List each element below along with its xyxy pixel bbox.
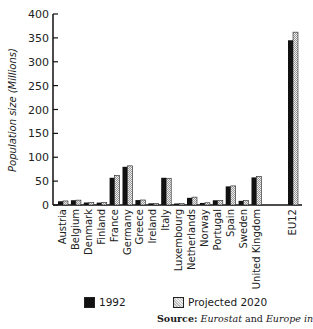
x-tick-label: Belgium: [70, 209, 81, 250]
bar-1992: [110, 178, 115, 205]
y-tick-label: 350: [28, 32, 49, 45]
bar-2020: [128, 166, 133, 205]
bar-1992: [239, 201, 244, 205]
x-tick-label: Norway: [199, 209, 210, 247]
bar-1992: [84, 203, 89, 205]
bar-2020: [166, 178, 171, 205]
bar-2020: [153, 203, 158, 205]
bar-2020: [205, 203, 210, 205]
x-tick-label: Germany: [122, 209, 133, 255]
bar-1992: [226, 186, 231, 205]
x-tick-label: Luxembourg: [173, 209, 184, 271]
x-tick-label: EU12: [287, 209, 298, 235]
x-tick-label: Spain: [225, 209, 236, 237]
bar-2020: [218, 200, 223, 205]
x-tick-label: Portugal: [212, 209, 223, 250]
bar-2020: [115, 175, 120, 205]
x-tick-label: Greece: [134, 209, 145, 245]
bar-2020: [257, 176, 262, 205]
legend-swatch-1992: [84, 297, 95, 308]
y-tick-label: 400: [28, 8, 49, 21]
bar-1992: [213, 200, 218, 205]
bar-1992: [135, 200, 140, 205]
x-tick-label: Finland: [96, 209, 107, 245]
bar-1992: [200, 203, 205, 205]
bar-1992: [288, 40, 293, 205]
bar-2020: [179, 204, 184, 206]
bar-1992: [174, 204, 179, 206]
x-tick-label: Sweden: [238, 209, 249, 249]
bar-1992: [71, 200, 76, 205]
legend-label-2020: Projected 2020: [188, 296, 267, 308]
source-eurostat: Eurostat: [200, 313, 242, 324]
bar-2020: [231, 186, 236, 205]
x-tick-label: United Kingdom: [251, 209, 262, 289]
bars: [58, 32, 298, 205]
source-note: Source: Eurostat and Europe in Figures: [157, 313, 313, 324]
bar-1992: [187, 198, 192, 205]
bar-1992: [58, 201, 63, 205]
y-tick-label: 150: [28, 127, 49, 140]
bar-1992: [123, 167, 128, 205]
y-tick-label: 50: [35, 175, 49, 188]
legend-item-1992: 1992: [84, 296, 126, 308]
x-tick-label: France: [109, 209, 120, 242]
bar-2020: [102, 202, 107, 205]
bar-1992: [97, 203, 102, 205]
bar-2020: [140, 200, 145, 205]
y-tick-label: 200: [28, 104, 49, 117]
bar-1992: [148, 203, 153, 205]
bar-2020: [244, 200, 249, 205]
y-tick-label: 250: [28, 80, 49, 93]
source-europe-in-figures: Europe in Figures: [266, 313, 313, 324]
y-tick-label: 300: [28, 56, 49, 69]
bar-2020: [89, 203, 94, 205]
bar-2020: [293, 32, 298, 205]
x-tick-label: Austria: [57, 209, 68, 244]
legend-label-1992: 1992: [99, 296, 126, 308]
y-tick-label: 100: [28, 151, 49, 164]
y-tick-label: 0: [42, 199, 49, 212]
bar-2020: [76, 200, 81, 205]
bar-1992: [161, 178, 166, 205]
source-label: Source:: [157, 313, 197, 324]
bar-1992: [252, 177, 257, 205]
bar-2020: [192, 197, 197, 205]
bar-chart: 050100150200250300350400 AustriaBelgiumD…: [0, 0, 313, 290]
y-axis-label: Population size (Millions): [7, 48, 18, 172]
legend-swatch-2020: [173, 297, 184, 308]
x-tick-label: Italy: [160, 209, 171, 231]
source-and: and: [242, 313, 266, 324]
legend-item-2020: Projected 2020: [173, 296, 267, 308]
bar-2020: [63, 201, 68, 205]
x-axis-labels: AustriaBelgiumDenmarkFinlandFranceGerman…: [57, 209, 298, 289]
x-tick-label: Ireland: [147, 209, 158, 244]
x-tick-label: Denmark: [83, 209, 94, 255]
x-tick-label: Netherlands: [186, 209, 197, 270]
